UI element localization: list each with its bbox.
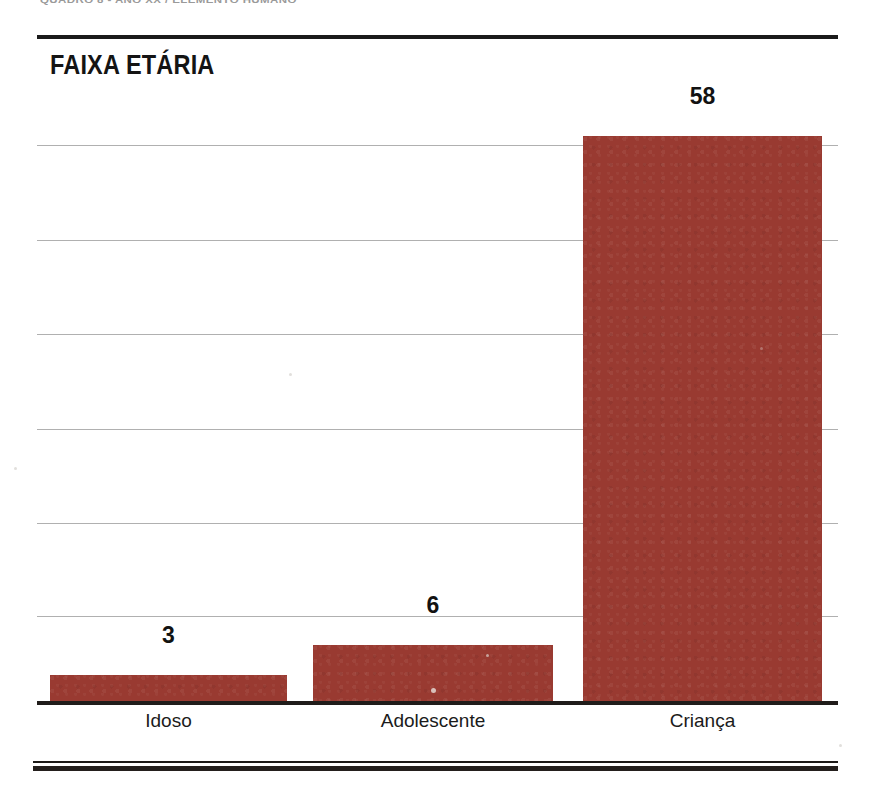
bar-crianca[interactable] [583, 136, 822, 703]
scan-speck [760, 347, 763, 350]
bottom-divider-rule-thick [33, 766, 838, 771]
bar-idoso[interactable] [50, 675, 287, 703]
bar-chart: 3 6 58 Idoso Adolescente Criança [0, 0, 872, 805]
category-label-adolescente: Adolescente [313, 710, 553, 732]
bar-value-adolescente: 6 [313, 592, 553, 619]
x-axis-line [37, 701, 838, 705]
scan-speck [839, 744, 842, 747]
category-label-crianca: Criança [583, 710, 822, 732]
bar-value-crianca: 58 [583, 83, 822, 110]
scan-speck [431, 688, 436, 693]
scan-speck [289, 373, 292, 376]
bar-value-idoso: 3 [50, 622, 287, 649]
category-label-idoso: Idoso [50, 710, 287, 732]
bottom-divider-rule-thin [33, 761, 838, 763]
scan-speck [486, 654, 489, 657]
bar-adolescente[interactable] [313, 645, 553, 703]
scan-speck [14, 467, 17, 470]
